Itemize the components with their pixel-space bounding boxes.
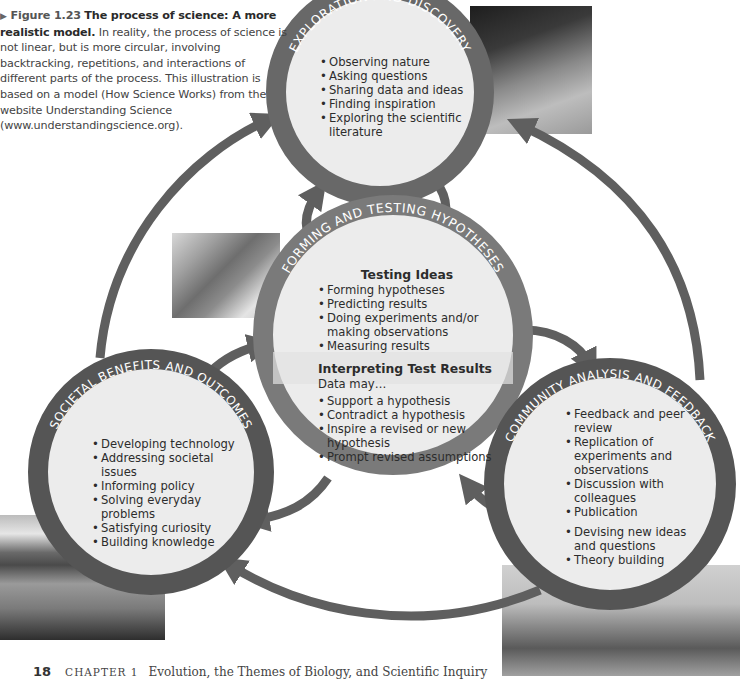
list-item: Contradict a hypothesis [318, 408, 496, 422]
list-item: Developing technology [92, 437, 252, 451]
list-item: Feedback and peer review [565, 407, 697, 435]
list-item: Finding inspiration [320, 97, 470, 111]
list-item: Discussion with colleagues [565, 477, 697, 505]
list-item: Solving everyday problems [92, 493, 252, 521]
list-item: Devising new ideas and questions [565, 525, 697, 553]
testing-ideas-heading: Testing Ideas [318, 268, 496, 282]
figure-body: In reality, the process of science is no… [0, 26, 287, 133]
node-testing-content: Testing Ideas Forming hypotheses Predict… [318, 268, 496, 464]
list-item: Doing experiments and/or making observat… [318, 311, 496, 339]
list-item: Replication of experiments and observati… [565, 435, 697, 477]
triangle-icon: ▶ [0, 11, 7, 21]
list-item: Support a hypothesis [318, 394, 496, 408]
arrow-societal-to-exploration [100, 120, 268, 358]
chapter-label: CHAPTER 1 [65, 666, 138, 678]
list-item: Addressing societal issues [92, 451, 252, 479]
node-societal-content: Developing technology Addressing societa… [92, 437, 252, 549]
page-footer: 18CHAPTER 1Evolution, the Themes of Biol… [33, 664, 487, 679]
list-item: Informing policy [92, 479, 252, 493]
interpreting-results-note: Data may… [318, 377, 496, 391]
page-number: 18 [33, 664, 51, 679]
list-item: Observing nature [320, 55, 470, 69]
list-item: Satisfying curiosity [92, 521, 252, 535]
list-item: Publication [565, 505, 697, 519]
list-item: Exploring the scientific literature [320, 111, 470, 139]
chapter-title: Evolution, the Themes of Biology, and Sc… [149, 665, 488, 679]
list-item: Inspire a revised or new hypothesis [318, 422, 496, 450]
node-community-content: Feedback and peer review Replication of … [565, 407, 697, 567]
list-item: Predicting results [318, 297, 496, 311]
node-community-list-2: Devising new ideas and questions Theory … [565, 525, 697, 567]
node-exploration-content: Observing nature Asking questions Sharin… [320, 55, 470, 139]
list-item: Forming hypotheses [318, 283, 496, 297]
testing-ideas-list: Forming hypotheses Predicting results Do… [318, 283, 496, 353]
figure-label: ▶ Figure 1.23 [0, 9, 81, 22]
figure-caption: ▶ Figure 1.23 The process of science: A … [0, 8, 292, 134]
list-item: Building knowledge [92, 535, 252, 549]
list-item: Prompt revised assumptions [318, 450, 496, 464]
node-societal-list: Developing technology Addressing societa… [92, 437, 252, 549]
list-item: Theory building [565, 553, 697, 567]
arrow-community-to-societal [230, 565, 540, 616]
arrow-community-to-exploration [520, 125, 700, 380]
node-community-list: Feedback and peer review Replication of … [565, 407, 697, 519]
list-item: Sharing data and ideas [320, 83, 470, 97]
arrow-testing-to-community [525, 330, 590, 365]
interpreting-results-list: Support a hypothesis Contradict a hypoth… [318, 394, 496, 464]
list-item: Measuring results [318, 339, 496, 353]
node-exploration-list: Observing nature Asking questions Sharin… [320, 55, 470, 139]
interpreting-results-heading: Interpreting Test Results [318, 362, 496, 376]
list-item: Asking questions [320, 69, 470, 83]
